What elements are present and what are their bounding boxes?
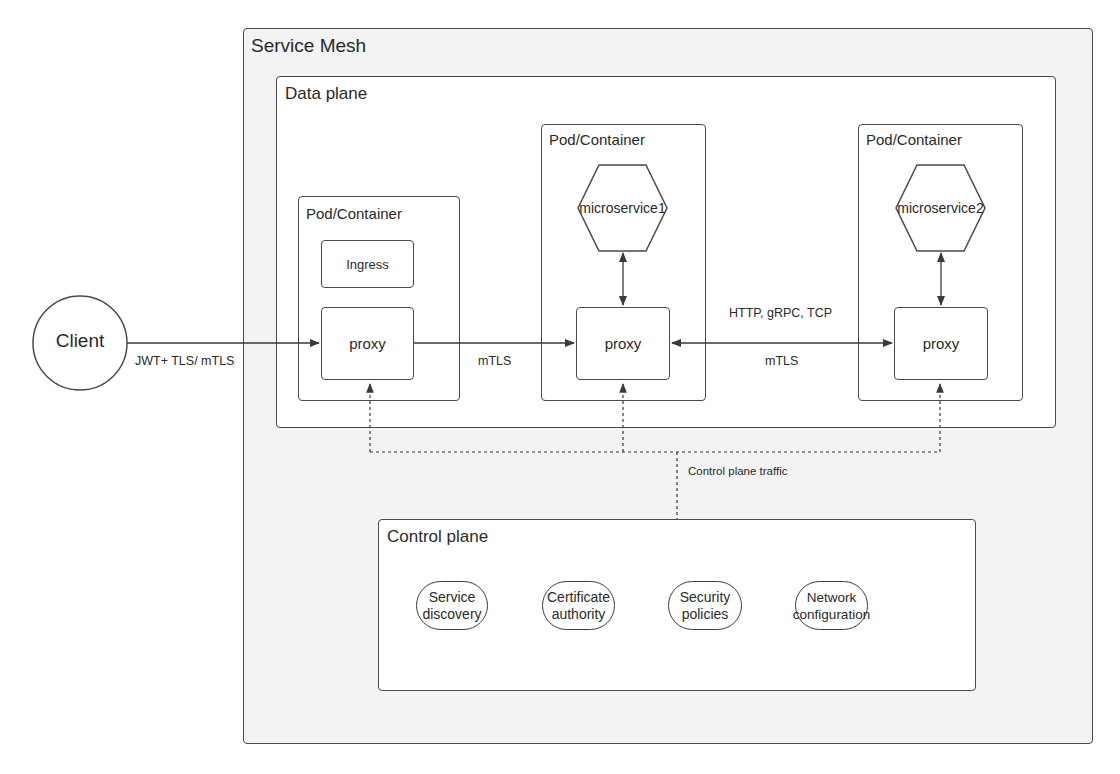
edge-label-client: JWT+ TLS/ mTLS bbox=[135, 354, 234, 368]
edge-label-mtls-1: mTLS bbox=[478, 354, 511, 368]
client-label: Client bbox=[33, 330, 127, 352]
microservice1-label[interactable]: microservice1 bbox=[574, 196, 671, 220]
control-plane-traffic-lines bbox=[370, 384, 940, 519]
edge-label-protocols: HTTP, gRPC, TCP bbox=[729, 306, 832, 320]
edge-label-control-traffic: Control plane traffic bbox=[688, 465, 788, 477]
connectors-layer bbox=[0, 0, 1120, 774]
edge-label-mtls-2: mTLS bbox=[765, 354, 798, 368]
microservice2-label[interactable]: microservice2 bbox=[892, 196, 989, 220]
